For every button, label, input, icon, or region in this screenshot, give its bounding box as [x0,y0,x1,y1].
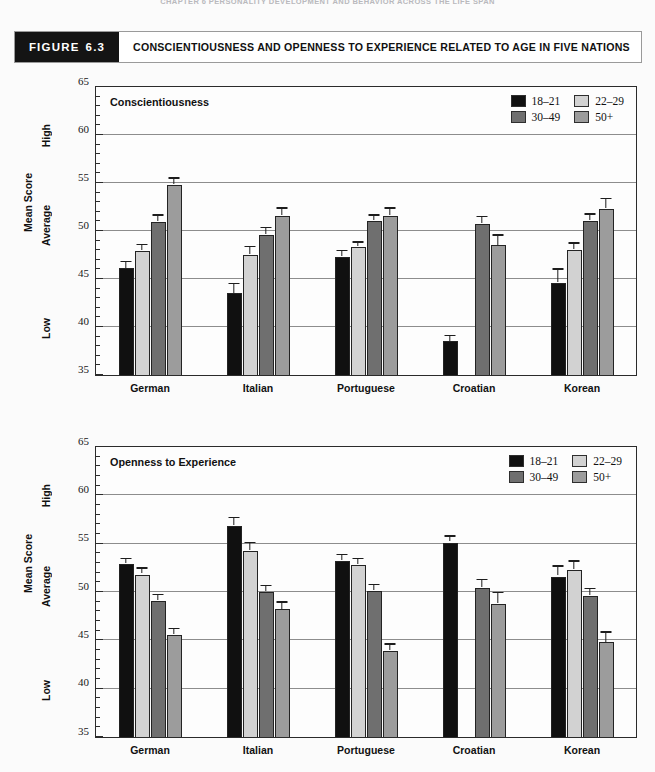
bar[interactable] [599,209,614,375]
bar[interactable] [583,221,598,375]
bar[interactable] [583,596,598,737]
bar-slot [567,447,582,737]
error-bar [497,236,498,245]
bar[interactable] [151,222,166,375]
bar[interactable] [491,245,506,375]
bar-slot [367,87,382,375]
bar[interactable] [275,216,290,375]
bar[interactable] [551,577,566,737]
legend-item[interactable]: 30–49 [509,471,559,483]
bar[interactable] [227,293,242,375]
error-bar-cap [493,234,504,235]
bar-slot [151,87,166,375]
bar-group: German [96,447,204,737]
error-bar [589,215,590,221]
plot-area: Openness to Experience3540455055606518–2… [95,446,637,738]
error-bar [341,251,342,256]
plot-area: Conscientiousness3540455055606518–2122–2… [95,86,637,376]
figure-tag-word: FIGURE [29,41,80,53]
bar[interactable] [335,561,350,737]
error-bar-cap [369,214,380,215]
y-tick-label: 55 [78,171,89,183]
bar-group: Croatian [420,447,528,737]
bar[interactable] [475,224,490,375]
error-bar-cap [261,585,272,586]
bar[interactable] [151,601,166,737]
bar[interactable] [259,235,274,375]
bar-slot [243,447,258,737]
legend-item[interactable]: 30–49 [511,111,561,123]
bar[interactable] [135,575,150,737]
error-bar [373,216,374,221]
bar[interactable] [383,216,398,375]
bar[interactable] [367,591,382,737]
chart-conscientiousness: Mean ScoreHighAverageLowConscientiousnes… [0,72,655,422]
bar[interactable] [227,526,242,737]
bar[interactable] [599,642,614,737]
legend-swatch-icon [572,471,587,483]
bar-slot [119,447,134,737]
legend-item[interactable]: 50+ [574,111,624,123]
bar[interactable] [491,604,506,737]
bar[interactable] [351,565,366,737]
legend-item[interactable]: 18–21 [509,455,559,467]
bar[interactable] [567,250,582,375]
legend-item[interactable]: 22–29 [572,455,622,467]
y-axis-title: Mean Score [22,173,38,232]
y-axis-annotation-average: Average [40,566,56,607]
bar-slot [275,87,290,375]
category-label: German [96,744,204,756]
error-bar [341,555,342,560]
error-bar-cap [569,242,580,243]
bar-slot [491,447,506,737]
y-tick-label: 50 [78,580,89,592]
y-tick-label: 40 [78,676,89,688]
y-tick-label: 60 [78,483,89,495]
error-bar [605,199,606,208]
bar[interactable] [167,635,182,737]
error-bar-cap [601,198,612,199]
bar-slot [383,447,398,737]
bar[interactable] [135,251,150,375]
bar[interactable] [367,221,382,375]
y-tick-label: 55 [78,531,89,543]
bar[interactable] [383,651,398,737]
bar[interactable] [567,570,582,737]
legend-item[interactable]: 18–21 [511,95,561,107]
error-bar [373,585,374,590]
error-bar-cap [337,250,348,251]
bar[interactable] [243,255,258,375]
bar[interactable] [259,592,274,737]
bar-slot [351,87,366,375]
bar[interactable] [551,283,566,375]
bar[interactable] [443,341,458,375]
bar[interactable] [351,247,366,375]
legend-swatch-icon [572,455,587,467]
bar-group: Portuguese [312,447,420,737]
y-tick-label: 35 [78,363,89,375]
bar-slot [135,447,150,737]
bar[interactable] [443,543,458,737]
bar-slot [551,447,566,737]
y-tick-label: 35 [78,725,89,737]
bar-group: Portuguese [312,87,420,375]
bar[interactable] [119,268,134,375]
error-bar [173,179,174,184]
bar[interactable] [119,564,134,737]
bar[interactable] [475,588,490,737]
error-bar-cap [229,283,240,284]
legend-swatch-icon [509,455,524,467]
legend: 18–2122–2930–4950+ [511,95,625,123]
bar[interactable] [243,551,258,737]
error-bar-cap [153,594,164,595]
bar[interactable] [167,185,182,375]
error-bar [357,559,358,564]
y-axis-annotation-low: Low [40,318,56,339]
legend-item[interactable]: 50+ [572,471,622,483]
legend-item[interactable]: 22–29 [574,95,624,107]
error-bar [233,284,234,293]
bar[interactable] [335,257,350,375]
error-bar-cap [121,558,132,559]
bar[interactable] [275,609,290,737]
error-bar-cap [277,601,288,602]
